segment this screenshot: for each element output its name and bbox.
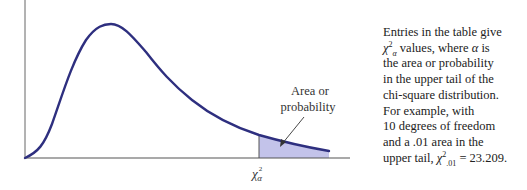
annotation-arrow-line — [282, 117, 304, 144]
chi-square-diagram: Area or probability χ2α — [0, 0, 360, 190]
caption-text: Entries in the table give χ2α values, wh… — [383, 25, 527, 166]
caption-line: and a .01 area in the — [383, 135, 527, 151]
annotation-text-line2: probability — [281, 100, 337, 114]
annotation-text-line1: Area or — [291, 84, 330, 98]
caption-line: χ2α values, where α is — [383, 41, 527, 57]
caption-line: in the upper tail of the — [383, 72, 527, 88]
density-curve — [25, 24, 329, 158]
critical-value-label: χ2α — [250, 165, 263, 183]
caption-line: chi-square distribution. — [383, 88, 527, 104]
caption-line: Entries in the table give — [383, 25, 527, 41]
caption-line: For example, with — [383, 104, 527, 120]
caption-line: 10 degrees of freedom — [383, 119, 527, 135]
caption-line: upper tail, χ2.01 = 23.209. — [383, 151, 527, 167]
caption-line: the area or probability — [383, 56, 527, 72]
